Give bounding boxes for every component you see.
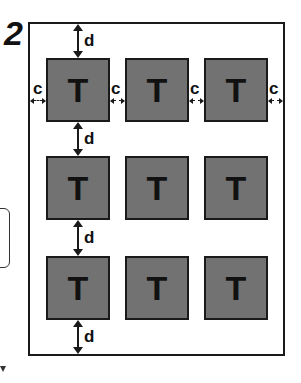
side-mark-fragment <box>0 366 6 372</box>
dimension-label-d: d <box>84 328 94 345</box>
tile-r1-c2: T <box>125 58 189 122</box>
arrow-right-icon <box>42 98 46 104</box>
horizontal-dimension-col2-col3 <box>189 98 204 104</box>
vertical-dimension-bottom <box>72 320 84 354</box>
dimension-label-d: d <box>84 32 94 49</box>
arrow-down-icon <box>73 347 83 354</box>
tile-r1-c1: T <box>46 58 110 122</box>
tile-r1-c3: T <box>204 58 268 122</box>
dimension-label-c: c <box>190 80 199 97</box>
figure-number: 2 <box>4 16 22 50</box>
arrow-right-icon <box>121 98 125 104</box>
dimension-label-c: c <box>111 80 120 97</box>
vertical-dimension-top <box>72 24 84 58</box>
dimension-line <box>77 224 79 252</box>
tile-label: T <box>226 171 247 205</box>
tile-r3-c3: T <box>204 256 268 320</box>
horizontal-dimension-col1-col2 <box>110 98 125 104</box>
tile-r2-c1: T <box>46 156 110 220</box>
dimension-label-d: d <box>84 130 94 147</box>
arrow-right-icon <box>200 98 204 104</box>
dimension-label-d: d <box>84 229 94 246</box>
arrow-right-icon <box>279 98 283 104</box>
tile-label: T <box>68 73 89 107</box>
tile-label: T <box>226 271 247 305</box>
side-bracket-fragment <box>0 208 10 268</box>
tile-r3-c1: T <box>46 256 110 320</box>
tile-label: T <box>147 271 168 305</box>
dimension-label-c: c <box>33 80 42 97</box>
tile-r2-c2: T <box>125 156 189 220</box>
horizontal-dimension-left <box>30 98 46 104</box>
horizontal-dimension-right <box>268 98 283 104</box>
tile-r2-c3: T <box>204 156 268 220</box>
arrow-down-icon <box>73 51 83 58</box>
arrow-down-icon <box>73 249 83 256</box>
tile-label: T <box>68 171 89 205</box>
vertical-dimension-row1-row2 <box>72 122 84 156</box>
tile-r3-c2: T <box>125 256 189 320</box>
tile-label: T <box>226 73 247 107</box>
tile-label: T <box>147 73 168 107</box>
vertical-dimension-row2-row3 <box>72 220 84 256</box>
dimension-label-c: c <box>269 80 278 97</box>
arrow-down-icon <box>73 149 83 156</box>
tile-label: T <box>68 271 89 305</box>
tile-label: T <box>147 171 168 205</box>
